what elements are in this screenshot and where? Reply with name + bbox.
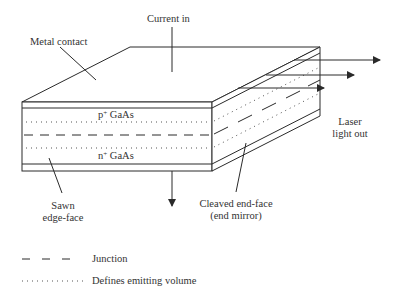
legend-emitting-label: Defines emitting volume <box>92 275 196 287</box>
p-layer-label: p+ GaAs <box>98 109 134 121</box>
metal-contact-label: Metal contact <box>30 36 87 48</box>
legend-junction-label: Junction <box>92 253 128 265</box>
laser-out-label: Laser light out <box>320 116 380 140</box>
cleaved-end-label: Cleaved end-face (end mirror) <box>196 198 276 222</box>
sawn-edge-label: Sawn edge-face <box>38 200 88 224</box>
current-in-label: Current in <box>147 13 190 25</box>
n-layer-label: n+ GaAs <box>98 150 134 162</box>
